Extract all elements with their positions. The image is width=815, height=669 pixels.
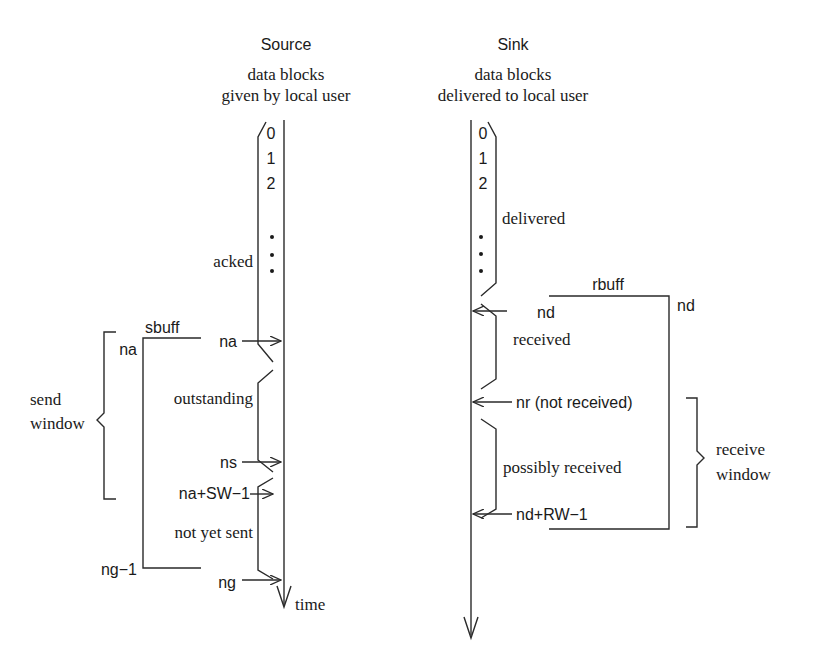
- source-subtitle-1: data blocks: [248, 65, 325, 84]
- sliding-window-diagram: Source data blocks given by local user t…: [0, 0, 815, 669]
- not-yet-sent-bracket: [258, 478, 273, 579]
- ellipsis-dot: [270, 253, 274, 257]
- sink-block-2: 2: [479, 175, 488, 192]
- send-window-line-2: window: [30, 414, 86, 433]
- sink-subtitle-2: delivered to local user: [438, 86, 589, 105]
- outstanding-bracket: [258, 370, 273, 472]
- source-time-label: time: [295, 595, 325, 614]
- region-possibly-received: possibly received: [503, 458, 622, 477]
- ellipsis-dot: [479, 269, 483, 273]
- pointer-ns: ns: [220, 454, 237, 471]
- receive-window-line-1: receive: [716, 440, 765, 459]
- ellipsis-dot: [479, 235, 483, 239]
- receive-window-line-2: window: [716, 465, 772, 484]
- pointer-nr: nr (not received): [516, 394, 633, 411]
- region-outstanding: outstanding: [174, 389, 254, 408]
- send-window-brace: [97, 332, 116, 499]
- sink-title: Sink: [497, 36, 529, 53]
- sink-subtitle-1: data blocks: [475, 65, 552, 84]
- region-delivered: delivered: [502, 209, 566, 228]
- sink-block-1: 1: [479, 150, 488, 167]
- source-title: Source: [261, 36, 312, 53]
- ellipsis-dot: [270, 235, 274, 239]
- possibly-received-bracket: [481, 419, 496, 518]
- sbuff-bottom-label: ng−1: [101, 561, 137, 578]
- source-subtitle-2: given by local user: [222, 86, 351, 105]
- pointer-nd: nd: [537, 304, 555, 321]
- region-received: received: [513, 330, 571, 349]
- receive-window-brace: [686, 398, 704, 527]
- sbuff-top-label: na: [119, 341, 137, 358]
- region-acked: acked: [213, 252, 253, 271]
- pointer-na-sw: na+SW−1: [179, 485, 250, 502]
- pointer-na: na: [219, 333, 237, 350]
- sbuff-label: sbuff: [145, 319, 180, 336]
- delivered-bracket: [481, 122, 496, 296]
- ellipsis-dot: [270, 269, 274, 273]
- source-block-0: 0: [267, 125, 276, 142]
- rbuff-label: rbuff: [592, 276, 624, 293]
- ellipsis-dot: [479, 252, 483, 256]
- source-panel: Source data blocks given by local user t…: [30, 36, 351, 614]
- region-not-yet-sent: not yet sent: [175, 523, 254, 542]
- rbuff-top-label: nd: [677, 297, 695, 314]
- send-window-line-1: send: [30, 390, 62, 409]
- source-block-2: 2: [267, 175, 276, 192]
- pointer-nd-rw: nd+RW−1: [516, 506, 588, 523]
- sink-panel: Sink data blocks delivered to local user…: [438, 36, 772, 638]
- pointer-ng: ng: [218, 574, 236, 591]
- received-bracket: [481, 304, 496, 389]
- source-block-1: 1: [267, 150, 276, 167]
- sink-block-0: 0: [479, 125, 488, 142]
